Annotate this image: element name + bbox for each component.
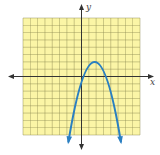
y-axis-down-arrow-icon: [79, 144, 84, 150]
y-axis-label: y: [85, 2, 92, 12]
parabola-graph: x y: [0, 0, 160, 155]
y-axis-up-arrow-icon: [79, 4, 84, 10]
x-axis-left-arrow-icon: [8, 74, 14, 79]
curve-right-arrow-icon: [117, 136, 123, 144]
x-axis-label: x: [150, 77, 155, 87]
curve-left-arrow-icon: [67, 136, 73, 144]
